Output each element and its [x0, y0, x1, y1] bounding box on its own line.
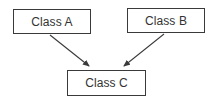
edge-a-to-c	[50, 35, 89, 66]
class-a-label: Class A	[31, 15, 72, 29]
class-c-node: Class C	[67, 70, 146, 96]
edge-b-to-c	[124, 34, 164, 66]
class-b-label: Class B	[145, 14, 187, 28]
class-c-label: Class C	[85, 76, 128, 90]
class-b-node: Class B	[127, 8, 205, 33]
class-a-node: Class A	[13, 9, 91, 34]
class-diagram: Class A Class B Class C	[0, 0, 216, 104]
